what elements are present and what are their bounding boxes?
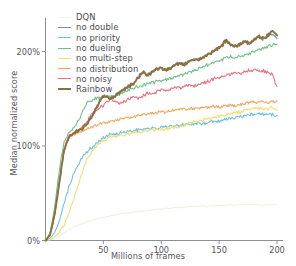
- legend-item-no-priority: no priority: [58, 33, 138, 43]
- y-axis-label: Median normalized score: [9, 63, 19, 183]
- chart-plot-area: 501001502000%100%200%: [0, 0, 296, 266]
- legend-label-no-multi-step: no multi-step: [76, 53, 133, 63]
- y-tick-label: 0%: [27, 236, 40, 246]
- legend-item-no-multi-step: no multi-step: [58, 53, 138, 63]
- legend-swatch-no-noisy: [58, 78, 71, 79]
- series-line-no-distribution: [46, 100, 278, 240]
- legend-item-no-distribution: no distribution: [58, 63, 138, 73]
- legend-swatch-no-multi-step: [58, 58, 71, 59]
- y-tick-label: 200%: [17, 47, 41, 57]
- legend-item-no-double: no double: [58, 22, 138, 32]
- legend-item-no-noisy: no noisy: [58, 74, 138, 84]
- legend-label-dqn: DQN: [76, 12, 96, 22]
- legend-item-rainbow: Rainbow: [58, 84, 138, 94]
- legend-swatch-no-distribution: [58, 68, 71, 69]
- y-tick-label: 100%: [17, 141, 41, 151]
- legend-swatch-no-priority: [58, 37, 71, 38]
- legend-label-rainbow: Rainbow: [76, 84, 112, 94]
- legend-swatch-dqn: [58, 17, 71, 18]
- legend-item-dqn: DQN: [58, 12, 138, 22]
- legend-label-no-double: no double: [76, 22, 119, 32]
- chart-legend: DQN no double no priority no dueling no …: [58, 12, 138, 94]
- series-line-no-noisy: [46, 69, 278, 241]
- x-axis-label: Millions of frames: [0, 251, 296, 261]
- legend-label-no-dueling: no dueling: [76, 43, 121, 53]
- chart-figure: 501001502000%100%200% DQN no double no p…: [0, 0, 296, 266]
- legend-swatch-rainbow: [58, 88, 71, 90]
- legend-label-no-distribution: no distribution: [76, 64, 138, 74]
- legend-swatch-no-double: [58, 27, 71, 28]
- legend-label-no-noisy: no noisy: [76, 74, 112, 84]
- legend-swatch-no-dueling: [58, 48, 71, 49]
- series-line-dqn: [46, 204, 278, 241]
- legend-item-no-dueling: no dueling: [58, 43, 138, 53]
- axis-tick-labels: 501001502000%100%200%: [17, 47, 285, 256]
- legend-label-no-priority: no priority: [76, 33, 120, 43]
